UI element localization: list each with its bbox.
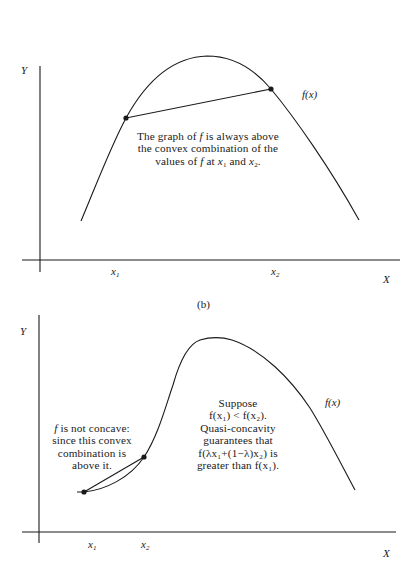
note-line-2: since this convex bbox=[42, 434, 142, 446]
x-axis-label: X bbox=[383, 273, 390, 285]
curve-label: f(x) bbox=[302, 88, 317, 100]
x1-tick-label: x1 bbox=[88, 538, 96, 550]
note-line-4: above it. bbox=[42, 459, 142, 471]
note-line-5: f(λx₁+(1−λ)x₂) is bbox=[188, 447, 288, 459]
note-line-6: greater than f(x₁). bbox=[188, 459, 288, 471]
x1-subscript: 1 bbox=[93, 544, 97, 552]
concavity-note: The graph of f is always above the conve… bbox=[128, 130, 288, 167]
y-axis-label: Y bbox=[21, 64, 27, 76]
note-line-3: values of f at x1 and x2. bbox=[128, 155, 288, 167]
x2-tick-label: x2 bbox=[271, 265, 279, 277]
x1-tick-label: x1 bbox=[111, 265, 119, 277]
x2-subscript: 2 bbox=[276, 271, 280, 279]
note-line-1: Suppose bbox=[188, 397, 288, 409]
note-line-1: f is not concave: bbox=[42, 422, 142, 434]
point-x2 bbox=[268, 86, 273, 91]
point-x2 bbox=[141, 454, 146, 459]
x-axis-label: X bbox=[383, 547, 390, 559]
y-axis-label: Y bbox=[20, 325, 26, 337]
note-line-2: f(x₁) < f(x₂). bbox=[188, 409, 288, 421]
x2-subscript: 2 bbox=[146, 544, 150, 552]
note-line-2: the convex combination of the bbox=[128, 142, 288, 154]
note-line-1: The graph of f is always above bbox=[128, 130, 288, 142]
curve-label: f(x) bbox=[325, 396, 340, 408]
not-concave-note: f is not concave: since this convex comb… bbox=[42, 422, 142, 472]
point-x1 bbox=[81, 489, 86, 494]
point-x1 bbox=[123, 115, 128, 120]
diagram-canvas bbox=[0, 0, 414, 565]
panel-b-caption: (b) bbox=[197, 298, 210, 310]
note-line-3: combination is bbox=[42, 447, 142, 459]
x1-subscript: 1 bbox=[116, 271, 120, 279]
quasi-concavity-note: Suppose f(x₁) < f(x₂). Quasi-concavity g… bbox=[188, 397, 288, 471]
x2-tick-label: x2 bbox=[141, 538, 149, 550]
note-line-4: guarantees that bbox=[188, 434, 288, 446]
note-line-3: Quasi-concavity bbox=[188, 422, 288, 434]
convex-combination-chord bbox=[126, 89, 271, 118]
